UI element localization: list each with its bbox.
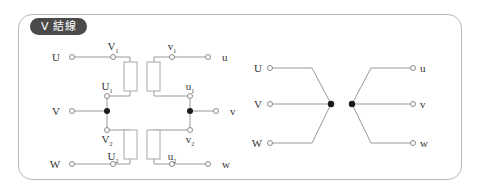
- chevron-label-w: w: [420, 137, 428, 149]
- terminal-V: [70, 109, 75, 114]
- label-terminal-v: v: [230, 105, 236, 117]
- node-right-vertex: [349, 101, 355, 107]
- chevron-label-V: V: [254, 98, 262, 110]
- label-terminal-u: u: [222, 51, 228, 63]
- wire-chevron-left-upper: [270, 68, 331, 104]
- label-tap-V1: V1: [108, 40, 119, 54]
- figure-root: V 結線: [0, 0, 482, 195]
- node-secondary-neutral: [187, 108, 193, 114]
- detailed-winding-diagram: [70, 55, 219, 167]
- coil-primary-upper: [124, 62, 137, 91]
- label-tap-v2: v2: [186, 133, 195, 147]
- wire-secondary-top: [154, 57, 208, 62]
- coil-primary-lower: [124, 130, 137, 159]
- chevron-terminal-U: [268, 66, 273, 71]
- tap-marker-u1: [188, 94, 193, 99]
- label-tap-u2: u2: [168, 150, 177, 164]
- tap-marker-U1: [105, 94, 110, 99]
- chevron-terminal-u: [411, 66, 416, 71]
- label-terminal-w: w: [222, 158, 230, 170]
- terminal-W: [70, 162, 75, 167]
- chevron-label-u: u: [420, 62, 426, 74]
- wire-secondary-lower-feed: [154, 111, 190, 130]
- tap-marker-v2: [188, 128, 193, 133]
- coil-secondary-upper: [147, 62, 160, 91]
- simplified-v-connection-diagram: [268, 66, 416, 146]
- terminal-w: [206, 162, 211, 167]
- label-tap-U2: U2: [108, 150, 119, 164]
- chevron-terminal-W: [268, 141, 273, 146]
- chevron-label-v: v: [420, 98, 426, 110]
- tap-marker-V2: [105, 128, 110, 133]
- label-tap-v1: v1: [168, 40, 177, 54]
- label-tap-u1: u1: [186, 80, 195, 94]
- node-left-vertex: [328, 101, 334, 107]
- terminal-v: [214, 109, 219, 114]
- chevron-label-U: U: [254, 62, 262, 74]
- label-tap-V2: V2: [102, 133, 113, 147]
- node-primary-neutral: [104, 108, 110, 114]
- label-tap-U1: U1: [102, 80, 113, 94]
- tap-marker-v1: [170, 55, 175, 60]
- wire-chevron-right-lower: [352, 104, 413, 143]
- wire-primary-top: [72, 57, 130, 62]
- coil-secondary-lower: [147, 130, 160, 159]
- chevron-terminal-v: [411, 102, 416, 107]
- label-terminal-V: V: [52, 105, 60, 117]
- wire-primary-upper-return: [107, 91, 130, 111]
- circuit-diagram: U V W u v w V1 U1 V2 U2 v1 u1: [0, 0, 482, 195]
- chevron-terminal-w: [411, 141, 416, 146]
- wire-chevron-left-lower: [270, 104, 331, 143]
- wire-chevron-right-upper: [352, 68, 413, 104]
- label-terminal-W: W: [50, 158, 61, 170]
- terminal-u: [206, 55, 211, 60]
- label-terminal-U: U: [52, 51, 60, 63]
- wire-primary-lower-feed: [107, 111, 130, 130]
- wire-secondary-bottom: [154, 159, 208, 164]
- wire-secondary-upper-return: [154, 91, 190, 111]
- terminal-U: [70, 55, 75, 60]
- chevron-terminal-V: [268, 102, 273, 107]
- wire-primary-bottom: [72, 159, 130, 164]
- tap-marker-V1: [111, 55, 116, 60]
- chevron-label-W: W: [252, 137, 263, 149]
